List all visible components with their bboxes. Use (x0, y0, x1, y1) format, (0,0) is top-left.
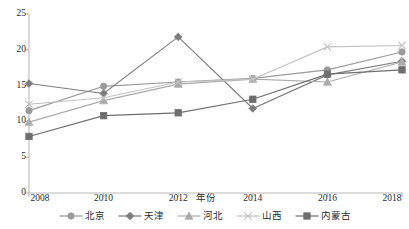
y-axis-tick-label: 5 (4, 152, 26, 162)
series-山西 (25, 42, 405, 108)
legend-marker-square-icon (295, 210, 319, 222)
legend-item-label: 山西 (262, 211, 282, 221)
legend-item-label: 北京 (85, 211, 105, 221)
legend-item-山西[interactable]: 山西 (236, 210, 282, 222)
series-point (175, 110, 181, 116)
legend-point (126, 212, 134, 220)
series-point (399, 49, 405, 55)
series-河北 (25, 58, 406, 125)
y-axis-tick-label: 15 (4, 81, 26, 91)
legend-marker-diamond-icon (118, 210, 142, 222)
legend-marker-triangle-icon (177, 210, 201, 222)
series-point (100, 83, 106, 89)
legend-item-河北[interactable]: 河北 (177, 210, 223, 222)
legend-marker-circle-icon (59, 210, 83, 222)
legend-item-内蒙古[interactable]: 内蒙古 (295, 210, 351, 222)
y-axis-tick-label: 10 (4, 116, 26, 126)
series-point (250, 96, 256, 102)
legend-point (303, 213, 309, 219)
legend-marker-x-icon (236, 210, 260, 222)
legend-item-label: 天津 (144, 211, 164, 221)
legend-item-天津[interactable]: 天津 (118, 210, 164, 222)
chart-page: 0510152025 200820102012201420162018 年份 北… (0, 0, 409, 229)
series-point (26, 107, 32, 113)
legend-item-label: 内蒙古 (321, 211, 351, 221)
legend-item-label: 河北 (203, 211, 223, 221)
x-axis-tick-label: 2016 (318, 194, 337, 204)
y-axis-tick-label: 20 (4, 45, 26, 55)
chart-legend: 北京天津河北山西内蒙古 (0, 208, 409, 224)
y-axis-tick-label: 25 (4, 9, 26, 19)
series-line (29, 46, 402, 105)
x-axis-title: 年份 (196, 193, 216, 203)
series-内蒙古 (26, 67, 405, 140)
legend-point (67, 213, 73, 219)
x-axis-tick-label: 2008 (31, 194, 50, 204)
series-point (324, 71, 330, 77)
x-axis-tick-label: 2018 (383, 194, 402, 204)
series-point (399, 67, 405, 73)
x-axis-tick-label: 2010 (94, 194, 113, 204)
x-axis-tick-label: 2012 (169, 194, 188, 204)
series-point (100, 112, 106, 118)
series-point (26, 133, 32, 139)
x-axis-tick-label: 2014 (243, 194, 262, 204)
legend-item-北京[interactable]: 北京 (59, 210, 105, 222)
